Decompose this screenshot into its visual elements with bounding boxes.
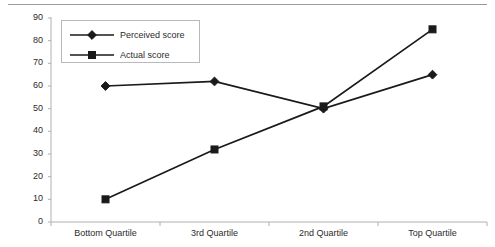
series-line: [106, 75, 433, 109]
y-axis-tick-label: 20: [21, 172, 43, 181]
data-point-marker: [320, 103, 327, 110]
data-point-marker: [210, 77, 219, 86]
x-axis-category-label: Top Quartile: [378, 228, 487, 238]
chart-figure: 0102030405060708090 Bottom Quartile3rd Q…: [0, 0, 495, 247]
y-axis-tick-label: 0: [21, 217, 43, 226]
chart-legend: Perceived scoreActual score: [61, 20, 200, 63]
diamond-marker-icon: [68, 28, 116, 42]
square-marker-icon: [68, 48, 116, 62]
data-point-marker: [211, 146, 218, 153]
y-axis-tick-label: 50: [21, 104, 43, 113]
data-point-marker: [101, 82, 110, 91]
data-point-marker: [429, 26, 436, 33]
legend-label: Actual score: [120, 48, 170, 62]
data-point-marker: [102, 196, 109, 203]
y-axis-tick-label: 40: [21, 126, 43, 135]
y-axis-tick-label: 90: [21, 13, 43, 22]
x-axis-category-label: 3rd Quartile: [160, 228, 269, 238]
legend-label: Perceived score: [120, 28, 185, 42]
y-axis-tick-label: 70: [21, 58, 43, 67]
x-axis-category-label: Bottom Quartile: [51, 228, 160, 238]
series-1: [101, 70, 437, 113]
legend-marker: [88, 31, 97, 40]
y-axis-tick-label: 10: [21, 194, 43, 203]
y-axis-tick-label: 30: [21, 149, 43, 158]
y-axis-tick-label: 80: [21, 36, 43, 45]
data-point-marker: [428, 70, 437, 79]
x-axis-category-label: 2nd Quartile: [269, 228, 378, 238]
legend-marker: [89, 52, 96, 59]
y-axis-tick-label: 60: [21, 81, 43, 90]
